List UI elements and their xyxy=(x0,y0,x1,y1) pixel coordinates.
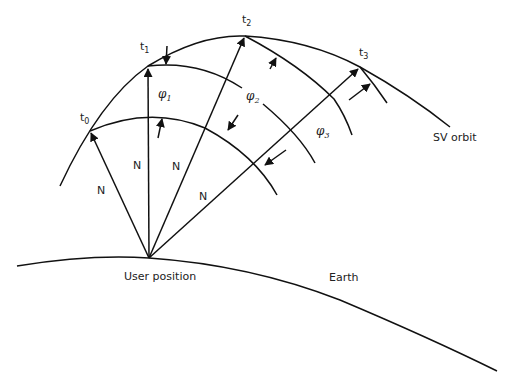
label-t3: t3 xyxy=(359,46,368,61)
range-vector-t2 xyxy=(149,38,244,258)
earth-curve xyxy=(17,257,497,371)
label-n-t3: N xyxy=(199,190,207,203)
wavefront-arc-t3 xyxy=(360,67,387,103)
phase-arrow-2 xyxy=(158,119,162,138)
label-n-t0: N xyxy=(97,184,105,197)
phase-arrow-1 xyxy=(166,46,167,64)
label-user-position: User position xyxy=(124,270,196,283)
phase-arrow-3 xyxy=(228,115,238,130)
sv-orbit-curve xyxy=(60,36,450,186)
label-t2: t2 xyxy=(242,13,251,28)
phase-arrow-5 xyxy=(265,150,286,165)
label-phi1: φ1 xyxy=(158,87,172,103)
wavefront-arc-t1b xyxy=(263,104,315,163)
label-phi2: φ2 xyxy=(246,89,260,105)
label-earth: Earth xyxy=(329,271,359,284)
label-phi3: φ3 xyxy=(316,124,330,140)
wavefront-arc-t2 xyxy=(245,36,352,135)
range-vector-t1 xyxy=(148,69,149,258)
label-sv-orbit: SV orbit xyxy=(433,131,477,144)
label-n-t1: N xyxy=(133,159,141,172)
label-n-t2: N xyxy=(172,160,180,173)
wavefront-arc-t0 xyxy=(90,117,277,195)
orbit-diagram: t0 t1 t2 t3 φ1 φ2 φ3 N N N N SV orbit Ea… xyxy=(0,0,509,383)
label-t0: t0 xyxy=(80,111,89,126)
label-t1: t1 xyxy=(140,40,149,55)
phase-arrow-6 xyxy=(349,84,370,100)
phase-arrow-4 xyxy=(270,58,276,69)
